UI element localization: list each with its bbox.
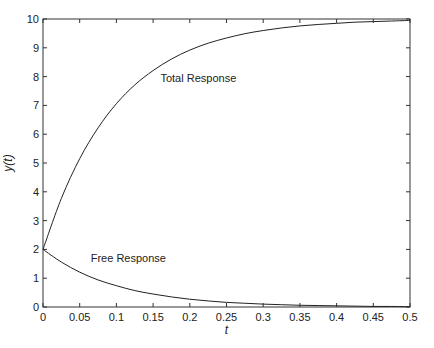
y-tick-label: 1 bbox=[33, 272, 39, 284]
x-tick-label: 0.15 bbox=[142, 311, 163, 323]
x-tick-label: 0.3 bbox=[256, 311, 271, 323]
annotation-total-response: Total Response bbox=[160, 72, 236, 84]
y-tick-label: 6 bbox=[33, 128, 39, 140]
y-tick-label: 2 bbox=[33, 243, 39, 255]
y-tick-label: 7 bbox=[33, 99, 39, 111]
y-tick-label: 5 bbox=[33, 157, 39, 169]
y-tick-label: 4 bbox=[33, 186, 39, 198]
x-tick-label: 0.05 bbox=[69, 311, 90, 323]
x-tick-label: 0.25 bbox=[216, 311, 237, 323]
y-axis-label: y(t) bbox=[1, 154, 15, 172]
x-axis-label: t bbox=[225, 323, 229, 337]
x-tick-label: 0.2 bbox=[182, 311, 197, 323]
x-tick-label: 0.45 bbox=[363, 311, 384, 323]
series-total-response bbox=[43, 20, 410, 249]
x-tick-label: 0.5 bbox=[402, 311, 417, 323]
y-tick-label: 8 bbox=[33, 71, 39, 83]
y-tick-label: 3 bbox=[33, 215, 39, 227]
x-tick-label: 0.35 bbox=[289, 311, 310, 323]
x-tick-label: 0 bbox=[40, 311, 46, 323]
annotation-free-response: Free Response bbox=[91, 252, 166, 264]
y-tick-label: 0 bbox=[33, 301, 39, 313]
y-tick-label: 10 bbox=[27, 13, 39, 25]
x-tick-label: 0.1 bbox=[109, 311, 124, 323]
x-tick-label: 0.4 bbox=[329, 311, 344, 323]
y-tick-label: 9 bbox=[33, 42, 39, 54]
line-chart: 00.050.10.150.20.250.30.350.40.450.50123… bbox=[0, 0, 434, 348]
axis-labels: 00.050.10.150.20.250.30.350.40.450.50123… bbox=[27, 13, 418, 323]
